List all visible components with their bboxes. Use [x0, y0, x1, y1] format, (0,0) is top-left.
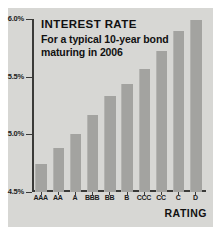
x-tick-label: AA [53, 194, 63, 201]
bar [121, 84, 132, 192]
chart-subtitle: For a typical 10-year bond maturing in 2… [41, 33, 171, 58]
bar [70, 134, 81, 192]
bar [190, 20, 201, 192]
x-tick-label: CCC [137, 194, 151, 201]
chart-figure: 6.0%5.5%5.0%4.5% AAAAAABBBBBBCCCCCCD INT… [0, 0, 221, 235]
y-tick-mark [26, 192, 32, 193]
chart-title: INTEREST RATE [41, 18, 137, 30]
bar [156, 51, 167, 192]
x-tick-label: B [124, 194, 129, 201]
x-tick-label: CC [156, 194, 166, 201]
bar [139, 69, 150, 192]
bar [53, 148, 64, 192]
y-tick-label: 4.5% [8, 187, 24, 196]
x-tick-label: BB [105, 194, 115, 201]
x-tick-label: D [193, 194, 198, 201]
bar [104, 96, 115, 192]
x-tick-label: C [176, 194, 181, 201]
y-tick-label: 6.0% [8, 14, 24, 23]
bar [173, 31, 184, 192]
x-tick-label: A [73, 194, 78, 201]
bar [87, 115, 98, 192]
y-tick-label: 5.0% [8, 129, 24, 138]
x-tick-label: BBB [85, 194, 99, 201]
bar [35, 164, 46, 192]
x-tick-label: AAA [33, 194, 47, 201]
x-axis-title: RATING [165, 207, 207, 219]
y-tick-label: 5.5% [8, 72, 24, 81]
